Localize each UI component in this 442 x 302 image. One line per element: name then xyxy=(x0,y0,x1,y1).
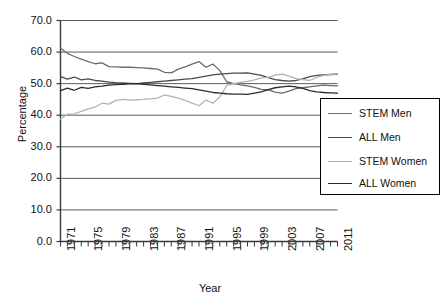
legend-label-0: STEM Men xyxy=(359,107,412,119)
legend-item-3[interactable]: ALL Women xyxy=(321,171,441,195)
legend-swatch-2 xyxy=(328,161,352,162)
legend-swatch-3 xyxy=(328,183,352,184)
legend-swatch-0 xyxy=(328,113,352,114)
legend-item-1[interactable]: ALL Men xyxy=(321,125,441,149)
legend-item-2[interactable]: STEM Women xyxy=(321,149,441,173)
chart-figure: Percentage Year 0.010.020.030.040.050.06… xyxy=(0,0,442,302)
legend-swatch-1 xyxy=(328,137,352,138)
chart-legend: STEM Men ALL Men STEM Women ALL Women xyxy=(320,98,440,195)
legend-item-0[interactable]: STEM Men xyxy=(321,101,441,125)
legend-label-2: STEM Women xyxy=(359,155,427,167)
legend-label-1: ALL Men xyxy=(359,131,401,143)
legend-label-3: ALL Women xyxy=(359,177,416,189)
